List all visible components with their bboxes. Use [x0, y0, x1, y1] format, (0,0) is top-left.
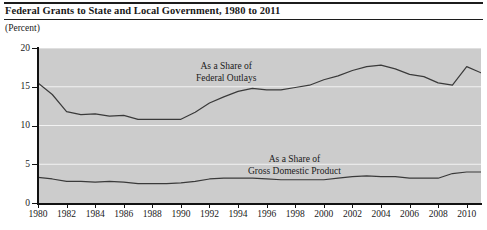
y-tick-mark: [32, 164, 37, 165]
x-tick-mark: [209, 204, 210, 208]
y-tick-label: 15: [4, 81, 30, 91]
plot-area: [38, 48, 481, 203]
gridlines: [38, 48, 481, 164]
x-tick-mark: [295, 204, 296, 208]
x-tick-mark: [181, 204, 182, 208]
y-axis-line: [37, 47, 39, 204]
x-tick-mark: [124, 204, 125, 208]
x-tick-label: 1984: [86, 209, 105, 220]
x-tick-label: 1982: [57, 209, 76, 220]
x-tick-mark: [267, 204, 268, 208]
x-tick-label: 2006: [400, 209, 419, 220]
annotation-gdp-line1: As a Share of: [248, 154, 341, 166]
y-tick-mark: [32, 48, 37, 49]
page-title: Federal Grants to State and Local Govern…: [5, 3, 280, 19]
annotation-outlays-line2: Federal Outlays: [196, 73, 256, 85]
x-tick-mark: [67, 204, 68, 208]
x-tick-mark: [438, 204, 439, 208]
x-tick-label: 1994: [229, 209, 248, 220]
x-axis-line: [37, 203, 482, 205]
annotation-federal-outlays: As a Share of Federal Outlays: [196, 61, 256, 84]
x-tick-mark: [95, 204, 96, 208]
x-tick-label: 2008: [429, 209, 448, 220]
plot-canvas: [38, 48, 481, 203]
x-tick-label: 2010: [457, 209, 476, 220]
x-tick-label: 1990: [171, 209, 190, 220]
y-tick-mark: [32, 203, 37, 204]
title-rule-bottom: [4, 19, 483, 20]
annotation-gdp-share: As a Share of Gross Domestic Product: [248, 154, 341, 177]
x-tick-mark: [152, 204, 153, 208]
x-tick-mark: [238, 204, 239, 208]
y-tick-label: 5: [4, 159, 30, 169]
y-tick-label: 20: [4, 43, 30, 53]
x-tick-label: 1986: [114, 209, 133, 220]
x-tick-label: 1988: [143, 209, 162, 220]
x-tick-label: 1980: [29, 209, 48, 220]
x-tick-label: 2000: [314, 209, 333, 220]
x-tick-mark: [38, 204, 39, 208]
series-line-federal-outlays: [38, 65, 481, 119]
x-tick-mark: [467, 204, 468, 208]
x-tick-label: 2004: [371, 209, 390, 220]
y-tick-label: 0: [4, 198, 30, 208]
x-tick-mark: [324, 204, 325, 208]
annotation-outlays-line1: As a Share of: [196, 61, 256, 73]
x-tick-label: 1992: [200, 209, 219, 220]
x-tick-label: 2002: [343, 209, 362, 220]
x-tick-mark: [352, 204, 353, 208]
x-tick-label: 1996: [257, 209, 276, 220]
x-tick-mark: [381, 204, 382, 208]
annotation-gdp-line2: Gross Domestic Product: [248, 166, 341, 178]
x-tick-label: 1998: [286, 209, 305, 220]
x-tick-mark: [410, 204, 411, 208]
y-axis-ticks: 05101520: [0, 0, 30, 230]
y-tick-label: 10: [4, 120, 30, 130]
y-tick-mark: [32, 87, 37, 88]
chart-figure: Federal Grants to State and Local Govern…: [0, 0, 487, 230]
y-tick-mark: [32, 126, 37, 127]
